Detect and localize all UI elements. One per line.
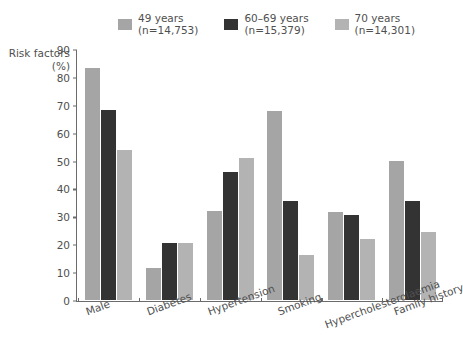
y-axis-title-line2: (%) [4,60,70,73]
y-axis-tick-mark [73,217,77,218]
bar-group [78,50,139,300]
bar [239,158,254,300]
x-axis-tick-mark [139,298,140,302]
legend-item-70-years: 70 years (n=14,301) [335,12,415,36]
bar-group [139,50,200,300]
y-axis-tick-mark [73,189,77,190]
chart-legend: 49 years (n=14,753) 60–69 years (n=15,37… [118,12,458,42]
y-axis-tick-mark [73,77,77,78]
bar-group [200,50,261,300]
y-axis-tick-mark [73,133,77,134]
legend-swatch-70-years [335,19,349,30]
legend-label-60-69-years: 60–69 years (n=15,379) [244,12,308,36]
legend-label-line1: 49 years [138,12,184,24]
bar [223,172,238,300]
x-axis-tick-mark [200,298,201,302]
bar [162,243,177,300]
chart-plot-area: 9080706050403020100 [76,50,443,302]
bar [283,201,298,300]
legend-label-49-years: 49 years (n=14,753) [138,12,198,36]
legend-label-line2: (n=14,301) [355,24,415,36]
bar-group [321,50,382,300]
bar [328,212,343,299]
legend-label-line2: (n=14,753) [138,24,198,36]
bar [85,68,100,300]
bar-groups [78,50,443,300]
bar [267,111,282,300]
legend-item-60-69-years: 60–69 years (n=15,379) [224,12,308,36]
x-axis-labels: MaleDiabetesHypertensionSmokingHyperchol… [76,302,443,353]
bar [360,239,375,300]
bar [146,268,161,300]
x-axis-tick-mark [78,298,79,302]
legend-item-49-years: 49 years (n=14,753) [118,12,198,36]
bar-group [382,50,443,300]
y-axis-tick-mark [73,245,77,246]
y-axis-tick-mark [73,50,77,51]
bar [389,161,404,300]
bar [117,150,132,300]
legend-swatch-60-69-years [224,19,238,30]
plot-frame: 9080706050403020100 [76,50,443,302]
y-axis-tick-mark [73,273,77,274]
bar [344,215,359,300]
legend-label-line2: (n=15,379) [244,24,304,36]
bar [101,110,116,300]
legend-label-line1: 70 years [355,12,401,24]
bar-group [261,50,322,300]
y-axis-tick-mark [73,105,77,106]
legend-label-70-years: 70 years (n=14,301) [355,12,415,36]
legend-label-line1: 60–69 years [244,12,308,24]
legend-swatch-49-years [118,19,132,30]
bar [207,211,222,300]
y-axis-tick-mark [73,161,77,162]
